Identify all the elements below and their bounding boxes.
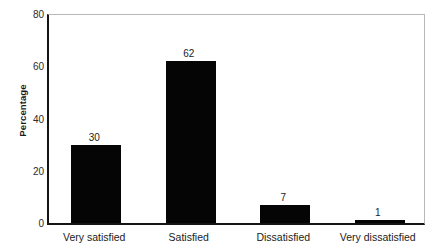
bar-value-label: 7 <box>258 192 308 203</box>
x-axis-tick-label: Dissatisfied <box>236 231 331 243</box>
bar <box>355 220 405 223</box>
bar-chart-figure: Percentage 020406080 Very satisfiedSatis… <box>0 0 435 252</box>
bar <box>260 205 310 223</box>
bar <box>166 61 216 223</box>
x-axis-tick-label: Satisfied <box>142 231 237 243</box>
bar-value-label: 1 <box>353 207 403 218</box>
y-axis-tick-label: 80 <box>14 9 44 20</box>
x-axis-tick-label: Very dissatisfied <box>331 231 426 243</box>
bar-value-label: 62 <box>164 48 214 59</box>
x-axis-tick-label: Very satisfied <box>47 231 142 243</box>
plot-area <box>47 14 425 225</box>
y-axis-tick-label: 40 <box>14 113 44 124</box>
y-axis-tick-label: 60 <box>14 61 44 72</box>
y-axis-tick-label: 20 <box>14 165 44 176</box>
y-axis-tick-label: 0 <box>14 218 44 229</box>
bar-value-label: 30 <box>69 132 119 143</box>
bar <box>71 145 121 223</box>
